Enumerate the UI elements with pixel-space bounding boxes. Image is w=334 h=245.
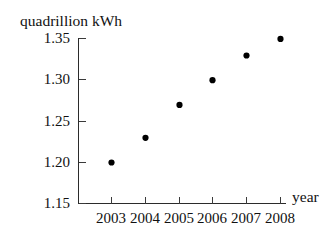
data-series [108, 36, 283, 166]
y-tick-label: 1.20 [18, 155, 70, 170]
y-tick-label: 1.30 [18, 72, 70, 87]
x-axis-label: year [292, 189, 319, 205]
x-tick-label: 2008 [260, 211, 300, 226]
data-point [108, 159, 114, 165]
data-point [243, 52, 249, 58]
data-point [277, 36, 283, 42]
y-axis-label: quadrillion kWh [20, 13, 122, 29]
y-tick-label: 1.25 [18, 114, 70, 129]
x-tick-marks [112, 197, 281, 204]
y-tick-label: 1.15 [18, 196, 70, 211]
data-point [209, 77, 215, 83]
data-point [176, 102, 182, 108]
y-tick-label: 1.35 [18, 31, 70, 46]
scatter-chart: quadrillion kWh year 1.35 1.30 1.25 1.20… [0, 0, 334, 245]
data-point [142, 135, 148, 141]
y-tick-marks [79, 39, 87, 204]
